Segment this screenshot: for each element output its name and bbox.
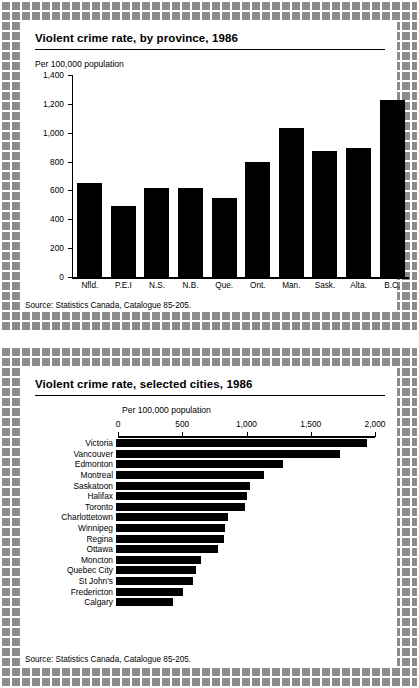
x-tick-label: N.S. bbox=[143, 281, 171, 290]
x-tick-label: P.E.I bbox=[109, 281, 137, 290]
bars-container-cities: VictoriaVancouverEdmontonMontrealSaskato… bbox=[32, 438, 387, 608]
x-tick-label: B.C. bbox=[378, 281, 406, 290]
x-axis-line bbox=[72, 277, 409, 279]
bar-stjohns bbox=[116, 577, 193, 585]
bar-winnipeg bbox=[116, 524, 225, 532]
bar-row: Montreal bbox=[32, 470, 387, 481]
bar-ns bbox=[144, 188, 169, 277]
bar-label-vancouver: Vancouver bbox=[32, 449, 116, 459]
bar-regina bbox=[116, 535, 224, 543]
title-divider-cities bbox=[35, 395, 385, 396]
bars-container bbox=[73, 75, 409, 277]
bar-label-ottawa: Ottawa bbox=[32, 544, 116, 554]
panel-cities: Violent crime rate, selected cities, 198… bbox=[2, 348, 417, 686]
bar-ottawa bbox=[116, 545, 218, 553]
x-tick-label: Sask. bbox=[311, 281, 339, 290]
x-axis-labels-cities: 05001,0001,5002,000 bbox=[32, 419, 387, 432]
bar-saskatoon bbox=[116, 482, 250, 490]
bar-label-calgary: Calgary bbox=[32, 597, 116, 607]
y-tick-label: 800 bbox=[50, 157, 64, 167]
bar-halifax bbox=[116, 492, 247, 500]
bar-row: Ottawa bbox=[32, 544, 387, 555]
y-tick-label: 400 bbox=[50, 214, 64, 224]
bar-charlottetown bbox=[116, 513, 228, 521]
y-tick-label: 1,400 bbox=[43, 70, 64, 80]
bar-sask bbox=[312, 151, 337, 277]
bar-pei bbox=[111, 206, 136, 277]
x-tick-mark-cities bbox=[375, 432, 376, 437]
bar-label-quebeccity: Quebec City bbox=[32, 565, 116, 575]
y-tick-label: 600 bbox=[50, 185, 64, 195]
bar-fredericton bbox=[116, 588, 183, 596]
bar-nb bbox=[178, 188, 203, 277]
bar-man bbox=[279, 128, 304, 277]
bar-edmonton bbox=[116, 460, 283, 468]
x-tick-label: Nfld. bbox=[76, 281, 104, 290]
bar-vancouver bbox=[116, 450, 340, 458]
bar-row: Quebec City bbox=[32, 565, 387, 576]
y-axis-labels: 02004006008001,0001,2001,400 bbox=[32, 75, 68, 277]
bar-toronto bbox=[116, 503, 245, 511]
title-divider-provinces bbox=[35, 49, 385, 50]
x-tick-label-cities: 2,000 bbox=[365, 419, 386, 429]
bar-montreal bbox=[116, 471, 264, 479]
x-tick-label-cities: 500 bbox=[175, 419, 189, 429]
bar-row: Halifax bbox=[32, 491, 387, 502]
bar-row: Toronto bbox=[32, 502, 387, 513]
bar-label-victoria: Victoria bbox=[32, 438, 116, 448]
bar-label-regina: Regina bbox=[32, 534, 116, 544]
page-title-cities: Violent crime rate, selected cities, 198… bbox=[35, 378, 387, 390]
bar-row: Edmonton bbox=[32, 459, 387, 470]
y-tick-label: 1,000 bbox=[43, 128, 64, 138]
bar-row: Moncton bbox=[32, 555, 387, 566]
bar-label-winnipeg: Winnipeg bbox=[32, 523, 116, 533]
x-tick-label-cities: 1,500 bbox=[300, 419, 321, 429]
bar-label-montreal: Montreal bbox=[32, 470, 116, 480]
source-note-provinces: Source: Statistics Canada, Catalogue 85-… bbox=[25, 301, 191, 310]
bar-row: Vancouver bbox=[32, 449, 387, 460]
y-tick-label: 1,200 bbox=[43, 99, 64, 109]
bar-label-stjohns: St John's bbox=[32, 576, 116, 586]
bar-row: Regina bbox=[32, 533, 387, 544]
panel-provinces: Violent crime rate, by province, 1986 Pe… bbox=[2, 2, 417, 332]
x-tick-label-cities: 1,000 bbox=[236, 419, 257, 429]
bar-nfld bbox=[77, 183, 102, 277]
axis-caption-provinces: Per 100,000 population bbox=[35, 59, 387, 69]
bar-row: Charlottetown bbox=[32, 512, 387, 523]
bar-label-toronto: Toronto bbox=[32, 502, 116, 512]
bar-label-fredericton: Fredericton bbox=[32, 587, 116, 597]
bar-que bbox=[212, 198, 237, 277]
horizontal-bar-chart: 05001,0001,5002,000 VictoriaVancouverEdm… bbox=[32, 419, 387, 637]
bar-alta bbox=[346, 148, 371, 277]
bar-victoria bbox=[116, 439, 367, 447]
bar-moncton bbox=[116, 556, 201, 564]
bar-calgary bbox=[116, 598, 173, 606]
bar-row: Winnipeg bbox=[32, 523, 387, 534]
bar-label-halifax: Halifax bbox=[32, 491, 116, 501]
x-tick-label: Alta. bbox=[345, 281, 373, 290]
bar-quebeccity bbox=[116, 566, 196, 574]
axis-caption-cities: Per 100,000 population bbox=[122, 405, 387, 415]
x-tick-label: Man. bbox=[277, 281, 305, 290]
bar-row: Calgary bbox=[32, 597, 387, 608]
y-tick-label: 0 bbox=[59, 272, 64, 282]
x-tick-label-cities: 0 bbox=[116, 419, 121, 429]
bar-row: Victoria bbox=[32, 438, 387, 449]
bar-row: St John's bbox=[32, 576, 387, 587]
figure-page: Violent crime rate, by province, 1986 Pe… bbox=[0, 0, 419, 688]
x-tick-label: Que. bbox=[210, 281, 238, 290]
bar-label-saskatoon: Saskatoon bbox=[32, 481, 116, 491]
x-tick-label: N.B. bbox=[177, 281, 205, 290]
page-title-provinces: Violent crime rate, by province, 1986 bbox=[35, 32, 387, 44]
bar-row: Saskatoon bbox=[32, 480, 387, 491]
x-axis-labels: Nfld.P.E.IN.S.N.B.Que.Ont.Man.Sask.Alta.… bbox=[73, 281, 409, 290]
panel-provinces-inner: Violent crime rate, by province, 1986 Pe… bbox=[22, 22, 397, 312]
bar-label-edmonton: Edmonton bbox=[32, 459, 116, 469]
vertical-bar-chart: 02004006008001,0001,2001,400 Nfld.P.E.IN… bbox=[32, 75, 387, 287]
panel-cities-inner: Violent crime rate, selected cities, 198… bbox=[22, 368, 397, 666]
bar-bc bbox=[380, 100, 405, 277]
bar-label-moncton: Moncton bbox=[32, 555, 116, 565]
y-tick-label: 200 bbox=[50, 243, 64, 253]
bar-label-charlottetown: Charlottetown bbox=[32, 512, 116, 522]
source-note-cities: Source: Statistics Canada, Catalogue 85-… bbox=[25, 655, 191, 664]
